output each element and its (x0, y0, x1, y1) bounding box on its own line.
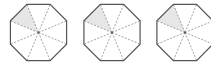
octagon-3 (157, 4, 211, 60)
octagon-1 (10, 4, 66, 60)
shaded-sector (10, 4, 38, 32)
center-point (184, 32, 186, 34)
center-point (38, 32, 40, 34)
shaded-sector (157, 4, 185, 32)
octagon-figure (0, 0, 211, 72)
center-point (111, 32, 113, 34)
octagon-2 (84, 4, 140, 60)
shaded-sector (84, 4, 112, 32)
